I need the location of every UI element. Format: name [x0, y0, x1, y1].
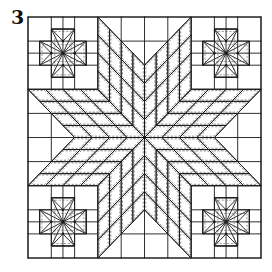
seam-dot	[213, 52, 216, 55]
seam-dot	[50, 52, 53, 55]
seam-dot	[225, 64, 228, 67]
seam-dot	[73, 221, 76, 224]
seam-dot	[225, 52, 228, 55]
corner-mini-star-1	[191, 17, 261, 89]
quilt-diagram	[0, 0, 272, 272]
seam-dot	[62, 209, 65, 212]
seam-dot	[62, 40, 65, 43]
seam-dot	[62, 52, 65, 55]
seam-dot	[236, 52, 239, 55]
seam-dot	[62, 64, 65, 67]
seam-dot	[225, 40, 228, 43]
seam-dot	[213, 221, 216, 224]
corner-mini-star-2	[28, 186, 98, 258]
seam-dot	[62, 233, 65, 236]
seam-dot	[225, 233, 228, 236]
corner-mini-star-3	[191, 186, 261, 258]
seam-dot	[236, 221, 239, 224]
seam-dot	[62, 221, 65, 224]
seam-dot	[73, 52, 76, 55]
seam-dot	[50, 221, 53, 224]
seam-dot	[225, 221, 228, 224]
corner-mini-star-0	[28, 17, 98, 89]
seam-dot	[225, 209, 228, 212]
star-center-point	[143, 136, 146, 139]
